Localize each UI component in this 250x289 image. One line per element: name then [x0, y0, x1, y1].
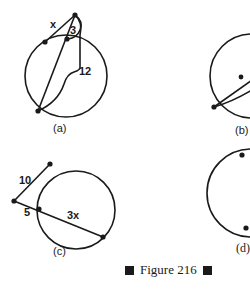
panel-b-points	[211, 75, 243, 110]
panel-b-center-point	[239, 75, 244, 80]
caption-square-right-icon	[203, 266, 212, 275]
panel-a-point-external	[72, 12, 77, 17]
panel-d-point-top	[239, 152, 244, 157]
panel-c-point-tangent	[47, 161, 52, 166]
panel-d-points	[239, 152, 248, 230]
panel-c-point-near	[36, 206, 41, 211]
figure-canvas: x 3 12 (a) (b) 10 5 3x (c) (d)	[0, 0, 250, 289]
panel-d	[207, 149, 250, 237]
panel-b-point	[211, 104, 216, 109]
panel-b-arc-chord	[214, 90, 250, 107]
panel-c-label-3x: 3x	[67, 209, 80, 221]
panel-b-caption: (b)	[235, 124, 248, 136]
panel-c-label-5: 5	[24, 206, 30, 218]
panel-a-caption: (a)	[53, 122, 66, 134]
panel-a-point-3	[35, 108, 40, 113]
panel-c-point-far	[100, 234, 105, 239]
panel-a-point-1	[42, 39, 47, 44]
panel-c-point-external	[11, 198, 16, 203]
panel-a	[25, 15, 107, 117]
panel-a-label-3: 3	[70, 24, 76, 36]
panel-a-label-x: x	[50, 18, 57, 30]
panel-d-circle	[207, 149, 250, 237]
caption-square-left-icon	[125, 266, 134, 275]
panel-a-circle	[25, 35, 107, 117]
figure-caption-text: Figure 216	[140, 262, 197, 277]
panel-c-caption: (c)	[53, 245, 66, 257]
panel-c-label-10: 10	[19, 174, 31, 186]
panel-d-point-bottom	[243, 225, 248, 230]
panel-a-point-2	[64, 36, 69, 41]
panel-d-caption: (d)	[236, 241, 250, 255]
figure-caption: Figure 216	[0, 262, 250, 278]
panel-a-label-12: 12	[79, 65, 91, 77]
